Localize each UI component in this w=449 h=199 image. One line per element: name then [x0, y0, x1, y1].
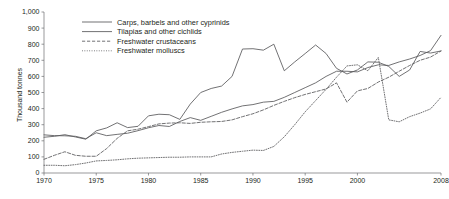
series-line-2	[44, 51, 441, 159]
y-tick-label: 100	[28, 153, 40, 160]
y-tick-label: 200	[28, 137, 40, 144]
y-tick-label: 1,000	[22, 8, 40, 15]
x-tick-label: 1975	[88, 177, 104, 184]
y-tick-label: 300	[28, 121, 40, 128]
series-line-0	[44, 35, 441, 138]
series-line-3	[44, 57, 441, 165]
x-axis-group: 19701975198019851990199520002008	[36, 173, 449, 184]
x-tick-label: 1995	[297, 177, 313, 184]
legend-label-0: Carps, barbels and other cyprinids	[117, 18, 230, 27]
y-tick-label: 900	[28, 25, 40, 32]
x-tick-label: 1985	[193, 177, 209, 184]
y-tick-label: 600	[28, 73, 40, 80]
x-axis-ticks: 19701975198019851990199520002008	[36, 173, 449, 184]
legend-label-2: Freshwater crustaceans	[117, 37, 196, 46]
x-tick-label: 1980	[141, 177, 157, 184]
y-axis-title: Thousand tonnes	[16, 67, 23, 122]
y-tick-label: 800	[28, 41, 40, 48]
chart-legend: Carps, barbels and other cyprinidsTilapi…	[82, 18, 230, 56]
legend-label-1: Tilapias and other cichlids	[117, 27, 202, 36]
x-tick-label: 1970	[36, 177, 52, 184]
chart-container: 01002003004005006007008009001,000 197019…	[0, 0, 449, 199]
y-tick-label: 500	[28, 89, 40, 96]
y-tick-label: 400	[28, 105, 40, 112]
x-tick-label: 1990	[245, 177, 261, 184]
series-line-1	[44, 44, 441, 139]
line-chart: 01002003004005006007008009001,000 197019…	[0, 0, 449, 199]
y-axis-group: 01002003004005006007008009001,000	[22, 8, 44, 176]
x-tick-label: 2008	[433, 177, 449, 184]
y-tick-label: 0	[36, 169, 40, 176]
y-axis-ticks: 01002003004005006007008009001,000	[22, 8, 44, 176]
series-lines	[44, 35, 441, 165]
legend-label-3: Freshwater molluscs	[117, 46, 185, 55]
x-tick-label: 2000	[350, 177, 366, 184]
y-tick-label: 700	[28, 57, 40, 64]
